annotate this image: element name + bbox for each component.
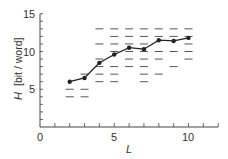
y-tick-label-15: 15 <box>23 8 35 20</box>
mean-line <box>70 38 189 82</box>
x-tick-label-10: 10 <box>182 131 194 143</box>
data-point-marker <box>82 76 86 80</box>
line-chart: 0 5 10 5 10 15 L H [bit / word] <box>0 0 228 159</box>
axes <box>40 14 218 127</box>
x-tick-label-0: 0 <box>37 131 43 143</box>
y-tick-label-10: 10 <box>23 46 35 58</box>
data-point-marker <box>112 52 116 56</box>
y-axis-symbol: H <box>12 92 24 100</box>
y-axis-unit: [bit / word] <box>12 37 24 86</box>
data-point-marker <box>171 39 175 43</box>
data-point-marker <box>127 46 131 50</box>
y-tick-label-5: 5 <box>29 83 35 95</box>
data-point-marker <box>186 36 190 40</box>
data-point-marker <box>97 61 101 65</box>
data-point-marker <box>157 38 161 42</box>
mean-series-line <box>68 36 191 84</box>
data-point-marker <box>68 80 72 84</box>
x-tick-label-5: 5 <box>111 131 117 143</box>
x-axis-label: L <box>126 143 132 155</box>
data-point-marker <box>142 47 146 51</box>
